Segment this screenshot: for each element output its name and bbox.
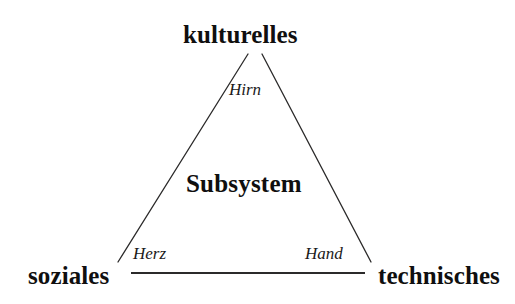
vertex-label-kulturelles: kulturelles: [183, 22, 298, 47]
triangle-right-leg: [262, 54, 371, 262]
center-label-subsystem: Subsystem: [186, 171, 302, 196]
triangle-diagram: kulturelles soziales technisches Subsyst…: [0, 0, 515, 304]
edge-label-herz: Herz: [133, 245, 166, 262]
edge-label-hand: Hand: [305, 245, 343, 262]
vertex-label-soziales: soziales: [28, 263, 109, 288]
vertex-label-technisches: technisches: [378, 263, 500, 288]
edge-label-hirn: Hirn: [229, 81, 261, 98]
